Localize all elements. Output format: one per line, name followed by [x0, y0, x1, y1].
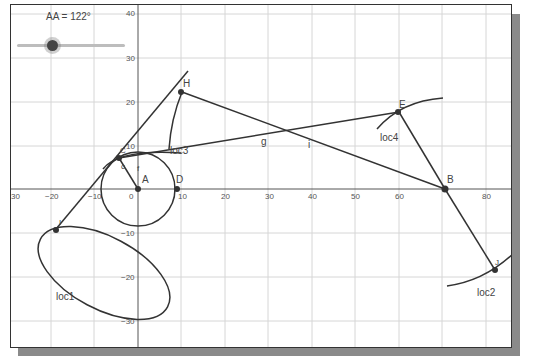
geometry-canvas[interactable]: 30 −20 −10 0 10 20 30 40 50 60 80 40 30 …	[11, 5, 512, 348]
frame-shadow-bottom	[18, 348, 520, 356]
svg-text:g: g	[261, 136, 267, 147]
segment-B-J	[445, 189, 495, 270]
graphics-view[interactable]: 30 −20 −10 0 10 20 30 40 50 60 80 40 30 …	[10, 4, 512, 348]
svg-text:50: 50	[351, 192, 360, 201]
svg-text:f: f	[137, 164, 140, 173]
svg-text:20: 20	[221, 192, 230, 201]
point-I	[53, 227, 59, 233]
point-C	[116, 155, 122, 161]
svg-text:30: 30	[126, 54, 135, 63]
point-B	[442, 186, 449, 193]
svg-text:−20: −20	[121, 273, 135, 282]
svg-text:loc4: loc4	[380, 132, 399, 143]
point-H	[178, 89, 184, 95]
svg-text:H: H	[183, 78, 190, 89]
svg-text:loc1: loc1	[56, 291, 75, 302]
point-A	[135, 186, 141, 192]
svg-text:loc3: loc3	[170, 145, 189, 156]
svg-text:i: i	[308, 139, 310, 150]
svg-text:C: C	[120, 146, 126, 155]
svg-text:c: c	[121, 162, 125, 171]
object-labels: A D B H E C I J loc3 loc4 loc2 loc1 g i …	[56, 78, 499, 302]
segment-g-C-E	[119, 112, 399, 158]
locus-loc1[interactable]	[24, 207, 185, 338]
svg-text:J: J	[495, 258, 499, 267]
svg-text:60: 60	[395, 192, 404, 201]
svg-text:10: 10	[178, 192, 187, 201]
svg-text:0: 0	[129, 192, 134, 201]
svg-text:A: A	[142, 174, 149, 185]
svg-text:30: 30	[265, 192, 274, 201]
svg-text:−10: −10	[88, 192, 102, 201]
svg-text:D: D	[176, 174, 183, 185]
svg-text:40: 40	[308, 192, 317, 201]
svg-text:−20: −20	[45, 192, 59, 201]
slider-label: AA = 122°	[46, 11, 91, 22]
point-J	[492, 267, 498, 273]
svg-text:80: 80	[482, 192, 491, 201]
slider-handle[interactable]	[47, 40, 58, 51]
svg-text:loc2: loc2	[477, 287, 496, 298]
svg-text:B: B	[447, 174, 454, 185]
tick-labels: 30 −20 −10 0 10 20 30 40 50 60 80 40 30 …	[11, 9, 491, 326]
segment-E-B	[399, 112, 445, 189]
slider-track[interactable]	[17, 44, 125, 47]
svg-text:20: 20	[126, 98, 135, 107]
points[interactable]	[53, 89, 498, 273]
locus-loc2	[447, 250, 512, 286]
locus-loc3	[169, 92, 182, 149]
frame-shadow-right	[512, 14, 520, 356]
svg-text:40: 40	[126, 9, 135, 18]
svg-text:E: E	[399, 99, 406, 110]
svg-text:−10: −10	[121, 229, 135, 238]
svg-text:I: I	[59, 218, 61, 227]
svg-text:30: 30	[11, 192, 20, 201]
point-D	[174, 186, 180, 192]
